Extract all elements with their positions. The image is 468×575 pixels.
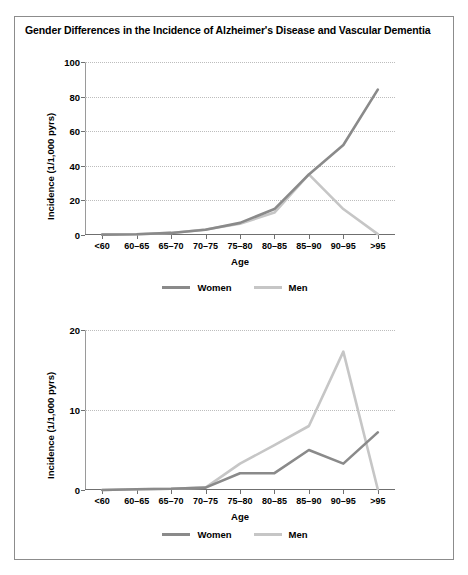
x-tick-label: 80–85: [262, 496, 287, 506]
legend-label-men: Men: [289, 282, 308, 293]
legend-swatch-women: [162, 533, 190, 536]
chart-panel-alzheimer: Incidence (1/1,000 pyrs) Alzheimer's dis…: [15, 45, 455, 313]
x-tick-label: 70–75: [193, 496, 218, 506]
x-tick-label: 60–65: [124, 241, 149, 251]
x-tick-label: 75–80: [227, 496, 252, 506]
y-tick-label: 60: [69, 126, 80, 137]
series-line-women: [102, 432, 378, 490]
legend-item-men[interactable]: Men: [254, 282, 308, 293]
x-tick-mark: [171, 235, 172, 239]
x-tick-mark: [274, 490, 275, 494]
legend-item-women[interactable]: Women: [162, 282, 231, 293]
chart-panel-vascular: Incidence (1/1,000 pyrs) Vascular dement…: [15, 317, 455, 559]
series-line-men: [102, 174, 378, 234]
x-tick-mark: [171, 490, 172, 494]
x-tick-label: >95: [370, 496, 385, 506]
x-axis-title-vascular: Age: [85, 511, 395, 522]
x-tick-mark: [309, 235, 310, 239]
plot-area-alzheimer: 020406080100 <6060–6565–7070–7575–8080–8…: [85, 62, 395, 235]
y-tick-mark: [81, 235, 85, 236]
plot-area-vascular: 01020 <6060–6565–7070–7575–8080–8585–909…: [85, 330, 395, 490]
x-tick-mark: [378, 235, 379, 239]
x-tick-label: 90–95: [331, 496, 356, 506]
x-tick-label: >95: [370, 241, 385, 251]
x-tick-label: 90–95: [331, 241, 356, 251]
x-tick-label: 60–65: [124, 496, 149, 506]
x-tick-mark: [206, 490, 207, 494]
x-tick-mark: [137, 490, 138, 494]
series-layer-alzheimer: [85, 62, 395, 235]
series-layer-vascular: [85, 330, 395, 490]
x-tick-mark: [240, 235, 241, 239]
legend-swatch-men: [254, 533, 282, 536]
x-tick-mark: [274, 235, 275, 239]
y-axis-title-alzheimer: Incidence (1/1,000 pyrs): [45, 113, 56, 220]
x-tick-label: 85–90: [296, 241, 321, 251]
legend-swatch-women: [162, 286, 190, 289]
x-tick-mark: [378, 490, 379, 494]
x-tick-mark: [309, 490, 310, 494]
legend-item-women[interactable]: Women: [162, 529, 231, 540]
y-tick-label: 40: [69, 160, 80, 171]
series-line-women: [102, 90, 378, 235]
x-tick-mark: [343, 490, 344, 494]
legend-label-women: Women: [197, 529, 231, 540]
x-tick-mark: [240, 490, 241, 494]
x-tick-label: 75–80: [227, 241, 252, 251]
y-tick-label: 100: [64, 57, 80, 68]
x-tick-label: <60: [95, 496, 110, 506]
x-tick-label: 80–85: [262, 241, 287, 251]
y-tick-label: 20: [69, 325, 80, 336]
x-tick-label: 85–90: [296, 496, 321, 506]
x-tick-label: <60: [95, 241, 110, 251]
y-tick-label: 10: [69, 405, 80, 416]
legend-label-men: Men: [289, 529, 308, 540]
x-tick-mark: [206, 235, 207, 239]
x-tick-mark: [343, 235, 344, 239]
x-tick-label: 65–70: [159, 496, 184, 506]
legend-swatch-men: [254, 286, 282, 289]
y-tick-label: 80: [69, 91, 80, 102]
y-axis-title-vascular: Incidence (1/1,000 pyrs): [45, 372, 56, 479]
x-tick-label: 65–70: [159, 241, 184, 251]
legend-item-men[interactable]: Men: [254, 529, 308, 540]
figure-title: Gender Differences in the Incidence of A…: [25, 24, 431, 36]
legend-vascular: Women Men: [15, 529, 455, 540]
y-tick-label: 0: [75, 485, 80, 496]
figure-frame: Gender Differences in the Incidence of A…: [14, 16, 454, 560]
y-tick-label: 20: [69, 195, 80, 206]
x-tick-label: 70–75: [193, 241, 218, 251]
y-tick-mark: [81, 490, 85, 491]
series-line-men: [102, 352, 378, 490]
legend-alzheimer: Women Men: [15, 282, 455, 293]
y-tick-label: 0: [75, 230, 80, 241]
x-axis-title-alzheimer: Age: [85, 256, 395, 267]
legend-label-women: Women: [197, 282, 231, 293]
